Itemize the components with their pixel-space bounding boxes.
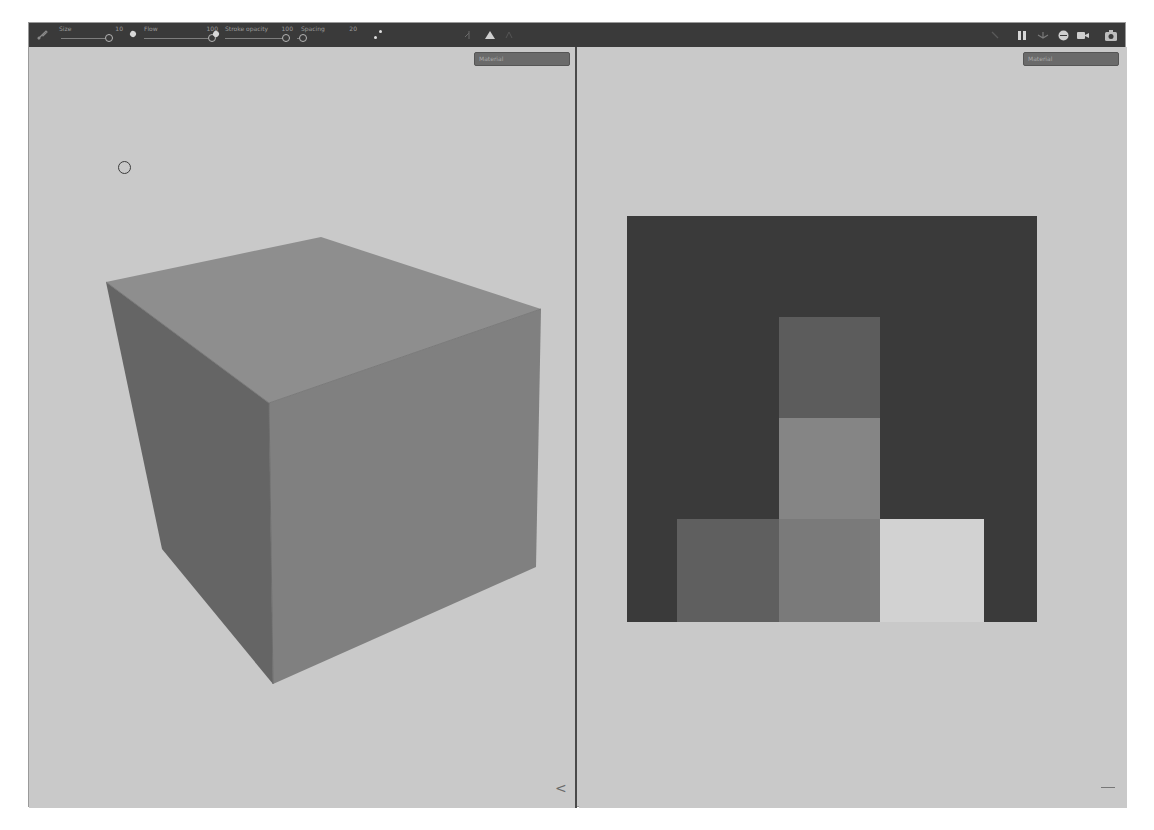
texture-uv-map[interactable]: [627, 216, 1037, 622]
stroke-opacity-track[interactable]: [225, 38, 283, 39]
symmetry-icon[interactable]: [373, 28, 385, 42]
spacing-slider[interactable]: Spacing 20: [297, 25, 367, 45]
minimize-panel-icon[interactable]: [1101, 787, 1115, 788]
uv-block-top-center: [779, 317, 880, 418]
capture-icon[interactable]: [1105, 29, 1117, 41]
uv-block-middle-center: [779, 418, 880, 519]
uv-block-bottom-right: [880, 519, 984, 622]
app-window: Size 10 Flow 100 Stroke opacity 100 Spac…: [28, 22, 1126, 807]
screenshot-icon[interactable]: [989, 29, 1001, 41]
size-label: Size: [59, 25, 71, 32]
size-knob[interactable]: [105, 34, 113, 42]
mirror-axis-icon[interactable]: [463, 29, 475, 41]
stroke-opacity-knob[interactable]: [282, 34, 290, 42]
size-slider[interactable]: Size 10: [59, 25, 123, 45]
camera-icon[interactable]: [1077, 29, 1089, 41]
symmetry-toggle-icon[interactable]: [503, 29, 515, 41]
stroke-opacity-label: Stroke opacity: [225, 25, 268, 32]
size-track[interactable]: [61, 38, 105, 39]
flow-label: Flow: [144, 25, 158, 32]
symmetry-mode-icon[interactable]: [484, 29, 496, 41]
brush-tool-icon[interactable]: [35, 28, 49, 42]
size-value: 10: [113, 25, 123, 32]
uv-block-bottom-center: [779, 519, 880, 622]
viewport-2d-mode-dropdown[interactable]: Material: [1023, 52, 1119, 66]
viewport-3d[interactable]: Material <: [29, 47, 577, 808]
pause-icon[interactable]: [1016, 29, 1028, 41]
stroke-opacity-value: 100: [279, 25, 293, 32]
top-toolbar: Size 10 Flow 100 Stroke opacity 100 Spac…: [29, 23, 1125, 47]
uv-block-bottom-left: [677, 519, 779, 622]
spacing-label: Spacing: [301, 25, 325, 32]
spacing-value: 20: [347, 25, 357, 32]
viewport-2d[interactable]: Material: [579, 47, 1127, 808]
environment-icon[interactable]: [1057, 29, 1069, 41]
stroke-opacity-slider[interactable]: Stroke opacity 100: [225, 25, 305, 45]
layers-icon[interactable]: [1037, 29, 1049, 41]
flow-track[interactable]: [144, 38, 208, 39]
cube-mesh[interactable]: [29, 47, 577, 808]
collapse-panel-icon[interactable]: <: [555, 780, 567, 796]
spacing-knob[interactable]: [299, 34, 307, 42]
pen-pressure-size-icon[interactable]: [129, 30, 137, 38]
